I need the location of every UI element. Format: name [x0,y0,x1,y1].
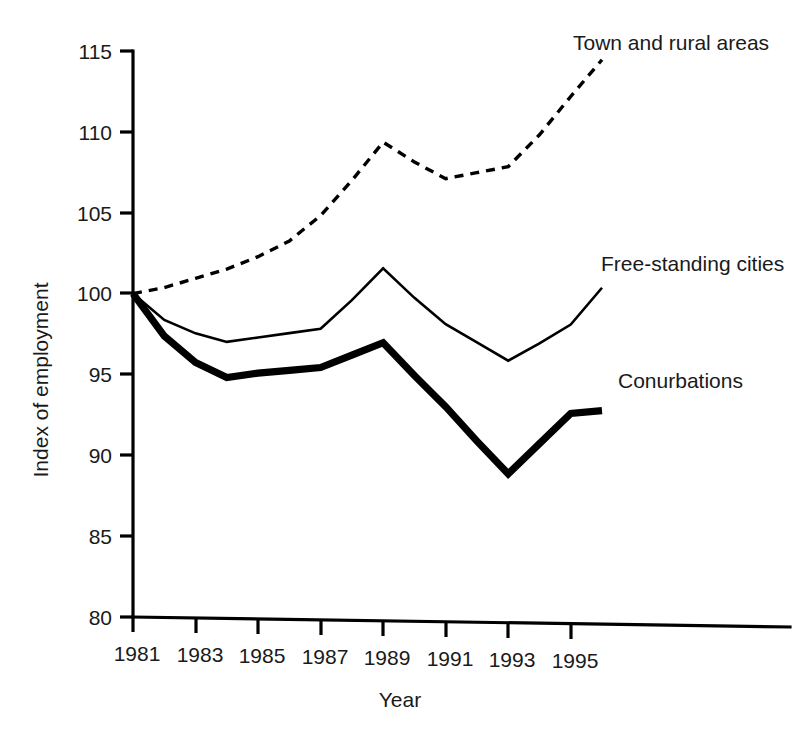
y-tick-label-115: 115 [79,40,112,63]
series-line-conurbations [133,294,602,474]
x-tick-label-1995: 1995 [552,649,599,672]
y-tick-label-110: 110 [79,121,112,144]
y-tick-label-95: 95 [89,363,112,386]
series-label-town-and-rural-areas: Town and rural areas [573,31,769,54]
y-tick-label-90: 90 [89,444,112,467]
series-line-town-and-rural-areas [133,60,602,294]
x-tick-label-1993: 1993 [489,648,536,671]
series-label-free-standing-cities: Free-standing cities [601,252,784,275]
y-tick-marks [120,51,133,617]
x-tick-label-1981: 1981 [114,642,161,665]
x-tick-label-1989: 1989 [364,646,411,669]
x-tick-labels: 1981 1983 1985 1987 1989 1991 1993 1995 [114,642,599,672]
y-axis-title: Index of employment [29,282,52,477]
x-tick-label-1983: 1983 [177,643,224,666]
x-axis-line [133,617,790,627]
x-tick-label-1991: 1991 [427,647,474,670]
y-tick-label-85: 85 [89,525,112,548]
y-tick-label-105: 105 [77,202,112,225]
y-tick-label-80: 80 [89,606,112,629]
x-tick-label-1985: 1985 [239,644,286,667]
x-tick-label-1987: 1987 [302,645,349,668]
employment-index-chart: 115 110 105 100 95 90 85 80 1981 1983 19… [0,0,801,739]
y-tick-labels: 115 110 105 100 95 90 85 80 [77,40,112,629]
chart-canvas: 115 110 105 100 95 90 85 80 1981 1983 19… [0,0,801,739]
x-axis-title: Year [379,688,421,711]
series-label-conurbations: Conurbations [618,369,743,392]
y-tick-label-100: 100 [77,282,112,305]
